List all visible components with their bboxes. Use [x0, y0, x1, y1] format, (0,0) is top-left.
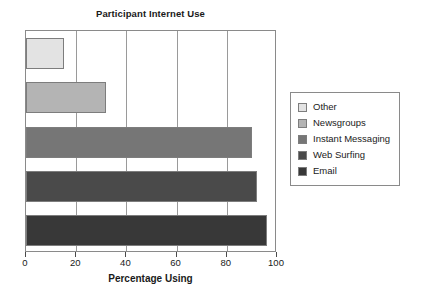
chart-title: Participant Internet Use: [25, 8, 276, 19]
x-axis-tick-labels: 020406080100: [25, 257, 276, 271]
legend-item[interactable]: Newsgroups: [298, 115, 393, 131]
bar: [26, 82, 106, 113]
legend-swatch-icon: [298, 151, 307, 160]
x-tick-label: 80: [221, 257, 232, 268]
x-tick-label: 40: [120, 257, 131, 268]
legend-item[interactable]: Other: [298, 99, 393, 115]
legend-item-label: Newsgroups: [313, 118, 366, 128]
legend-swatch-icon: [298, 103, 307, 112]
x-axis-title: Percentage Using: [25, 273, 276, 284]
legend-item[interactable]: Web Surfing: [298, 147, 393, 163]
legend-item-label: Web Surfing: [313, 150, 365, 160]
legend-item-label: Instant Messaging: [313, 134, 390, 144]
bar: [26, 215, 267, 246]
bars-layer: [26, 31, 275, 251]
legend-swatch-icon: [298, 119, 307, 128]
x-tick-label: 0: [22, 257, 27, 268]
x-tick-label: 60: [170, 257, 181, 268]
plot-area: [25, 30, 276, 252]
legend-item-label: Email: [313, 166, 337, 176]
legend-item[interactable]: Email: [298, 163, 393, 179]
bar: [26, 38, 64, 69]
bar: [26, 127, 252, 158]
legend-swatch-icon: [298, 135, 307, 144]
x-tick-label: 100: [268, 257, 284, 268]
legend-item[interactable]: Instant Messaging: [298, 131, 393, 147]
legend-item-label: Other: [313, 102, 337, 112]
legend-swatch-icon: [298, 167, 307, 176]
legend: OtherNewsgroupsInstant MessagingWeb Surf…: [290, 92, 400, 186]
bar: [26, 171, 257, 202]
x-tick-label: 20: [70, 257, 81, 268]
